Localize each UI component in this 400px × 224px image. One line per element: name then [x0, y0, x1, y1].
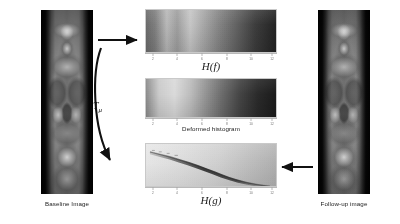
- histogram-label-h-of-f: H(f): [145, 60, 277, 72]
- histogram-noise-h-of-g: [146, 144, 276, 186]
- histogram-label-h-of-g: H(g): [145, 194, 277, 206]
- baseline-image-caption: Baseline Image: [26, 200, 108, 207]
- histogram-noise-deformed: [146, 79, 276, 117]
- baseline-image-panel: [41, 10, 93, 194]
- histogram-panel-deformed: 2 4 6 8 10 12 Deformed histogram: [145, 78, 277, 134]
- histogram-panel-h-of-f: 2 4 6 8 10 12 H(f): [145, 9, 277, 71]
- transform-label-subscript: μ: [99, 106, 103, 114]
- histogram-label-deformed: Deformed histogram: [145, 125, 277, 132]
- transform-label: Tμ: [93, 100, 102, 114]
- histogram-panel-h-of-g: 2 4 6 8 10 12 H(g): [145, 143, 277, 205]
- histogram-plot-deformed: [145, 78, 277, 118]
- histogram-noise-h-of-f: [146, 10, 276, 52]
- histogram-plot-h-of-f: [145, 9, 277, 53]
- followup-image-caption: Follow-up image: [303, 200, 385, 207]
- baseline-image-vignette: [41, 10, 93, 194]
- figure-root: Baseline Image Follow-up image 2: [0, 0, 400, 224]
- histogram-plot-h-of-g: [145, 143, 277, 187]
- followup-image-vignette: [318, 10, 370, 194]
- followup-image-panel: [318, 10, 370, 194]
